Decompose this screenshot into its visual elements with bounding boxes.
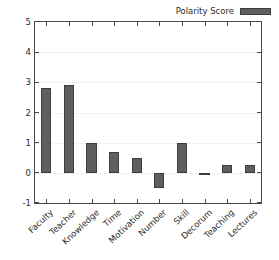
y-axis-tick-label: 1 [26, 138, 31, 147]
x-axis-tick-mark [250, 199, 251, 203]
y-axis-tick-mark [257, 52, 261, 53]
y-axis-tick-label: 4 [26, 48, 31, 57]
bar-chart-figure: 543210-1 Polarity Score FacultyTeacherKn… [0, 0, 279, 260]
bar [199, 173, 209, 175]
y-axis-tick-label: 5 [26, 18, 31, 27]
x-axis-tick-mark [69, 199, 70, 203]
legend-swatch-icon [240, 8, 271, 15]
x-axis-tick-mark [92, 199, 93, 203]
x-axis-tick-mark [205, 199, 206, 203]
y-axis-tick-mark [257, 21, 261, 22]
bar [86, 143, 96, 173]
bar [177, 143, 187, 173]
legend-entry-label: Polarity Score [176, 7, 234, 16]
y-axis-tick-mark [257, 112, 261, 113]
bar [222, 165, 232, 173]
bar [64, 85, 74, 172]
y-axis-tick-mark [35, 142, 39, 143]
plot-area: 543210-1 [34, 21, 262, 204]
y-axis-tick-mark [257, 202, 261, 203]
y-axis-tick-mark [35, 52, 39, 53]
x-axis-tick-mark [46, 199, 47, 203]
x-axis-tick-mark [227, 199, 228, 203]
y-axis-tick-mark [35, 172, 39, 173]
y-axis-tick-mark [35, 21, 39, 22]
y-axis-tick-mark [257, 142, 261, 143]
x-axis-tick-mark [137, 199, 138, 203]
bar [245, 165, 255, 173]
bar [132, 158, 142, 173]
x-axis-tick-mark [250, 22, 251, 26]
chart-legend: Polarity Score [174, 6, 273, 17]
gridline [35, 173, 261, 174]
x-axis-tick-mark [227, 22, 228, 26]
x-axis-tick-mark [159, 22, 160, 26]
x-axis-tick-mark [205, 22, 206, 26]
y-axis-tick-label: -1 [23, 199, 31, 208]
x-axis-tick-mark [114, 199, 115, 203]
y-axis-tick-mark [257, 172, 261, 173]
bar [154, 173, 164, 188]
x-axis-tick-mark [182, 199, 183, 203]
y-axis-tick-mark [35, 82, 39, 83]
x-axis-tick-mark [137, 22, 138, 26]
y-axis-tick-label: 0 [26, 169, 31, 178]
y-axis-tick-mark [35, 112, 39, 113]
x-axis-tick-mark [159, 199, 160, 203]
y-axis-tick-label: 3 [26, 78, 31, 87]
gridline [35, 82, 261, 83]
y-axis-tick-label: 2 [26, 108, 31, 117]
x-axis-tick-mark [92, 22, 93, 26]
x-axis-tick-mark [182, 22, 183, 26]
y-axis-tick-mark [257, 82, 261, 83]
bar [109, 152, 119, 173]
x-axis-tick-mark [114, 22, 115, 26]
gridline [35, 52, 261, 53]
y-axis-tick-mark [35, 202, 39, 203]
x-axis-tick-label: Skill [172, 208, 191, 226]
x-axis-tick-mark [69, 22, 70, 26]
x-axis-tick-mark [46, 22, 47, 26]
bar [41, 88, 51, 172]
